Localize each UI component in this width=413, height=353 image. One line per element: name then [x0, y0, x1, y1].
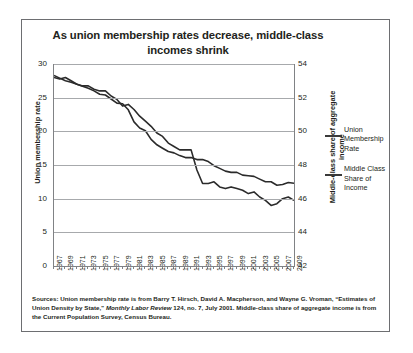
data-line-middle-class-share-of-income [54, 78, 294, 206]
grid-line [54, 64, 294, 65]
y-axis-left-tick-label: 15 [25, 160, 47, 169]
legend-label: Middle Class Share of Income [344, 164, 388, 192]
legend-item[interactable]: Middle Class Share of Income [325, 164, 391, 192]
grid-line [54, 98, 294, 99]
grid-line [54, 232, 294, 233]
y-axis-right-tick-label: 50 [298, 126, 320, 135]
grid-line [54, 199, 294, 200]
grid-line [54, 165, 294, 166]
y-axis-left-tick-label: 20 [25, 126, 47, 135]
legend-swatch-icon [325, 135, 342, 137]
y-axis-right-tick-label: 48 [298, 160, 320, 169]
y-axis-left-tick-label: 25 [25, 93, 47, 102]
legend-swatch-icon [325, 174, 342, 176]
legend-item[interactable]: Union Membership Rate [325, 125, 391, 153]
y-axis-right-tick-label: 46 [298, 194, 320, 203]
y-axis-left-tick-label: 30 [25, 59, 47, 68]
grid-line [54, 131, 294, 132]
source-publication: Monthly Labor Review [106, 304, 172, 311]
chart-legend: Union Membership RateMiddle Class Share … [325, 125, 391, 203]
y-axis-left-tick-label: 0 [25, 261, 47, 270]
x-axis-tick-label: 2009 [296, 255, 303, 271]
legend-label: Union Membership Rate [344, 125, 388, 153]
y-axis-right-tick-label: 54 [298, 59, 320, 68]
data-line-union-membership-rate [54, 75, 294, 185]
y-axis-right-tick-label: 52 [298, 93, 320, 102]
y-axis-left-tick-label: 10 [25, 194, 47, 203]
source-note: Sources: Union membership rate is from B… [32, 294, 384, 322]
y-axis-left-tick-label: 5 [25, 227, 47, 236]
y-axis-left-title: Union membership rate [33, 88, 42, 198]
y-axis-right-tick-label: 44 [298, 227, 320, 236]
chart-figure: As union membership rates decrease, midd… [21, 19, 390, 332]
plot-area [53, 64, 295, 267]
